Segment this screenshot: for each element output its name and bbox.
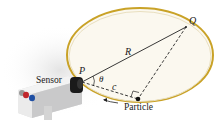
point-Q <box>185 26 187 28</box>
label-particle: Particle <box>124 103 153 113</box>
label-R: R <box>125 47 131 57</box>
label-Q: Q <box>189 16 196 26</box>
label-c: c <box>112 82 116 92</box>
particle-dot <box>136 97 141 102</box>
label-sensor: Sensor <box>36 76 62 86</box>
diagram-graphics <box>0 0 218 121</box>
label-P: P <box>79 66 85 76</box>
red-led-icon <box>23 92 29 98</box>
label-theta: θ <box>99 75 103 84</box>
diagram-canvas: Sensor Particle P Q R c θ <box>0 0 218 121</box>
blue-led-icon <box>29 95 35 101</box>
